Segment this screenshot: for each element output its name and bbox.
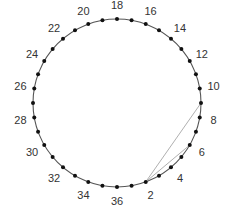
node-4 xyxy=(169,165,173,169)
node-3 xyxy=(157,174,161,178)
node-12 xyxy=(188,59,192,63)
node-label-34: 34 xyxy=(77,189,89,201)
chord-2-9 xyxy=(146,103,201,182)
node-label-6: 6 xyxy=(199,146,205,158)
node-label-26: 26 xyxy=(14,80,26,92)
node-2 xyxy=(144,180,148,184)
node-22 xyxy=(61,37,65,41)
node-label-20: 20 xyxy=(77,5,89,17)
node-20 xyxy=(86,22,90,26)
node-label-4: 4 xyxy=(177,172,183,184)
node-label-22: 22 xyxy=(48,22,60,34)
node-label-36: 36 xyxy=(111,195,123,207)
node-29 xyxy=(36,130,40,134)
node-label-28: 28 xyxy=(14,114,26,126)
circle-ring xyxy=(33,19,201,187)
node-7 xyxy=(194,130,198,134)
node-34 xyxy=(86,180,90,184)
node-26 xyxy=(32,86,36,90)
node-8 xyxy=(198,116,202,120)
node-31 xyxy=(51,155,55,159)
node-32 xyxy=(61,165,65,169)
node-13 xyxy=(179,47,183,51)
node-36 xyxy=(115,185,119,189)
node-27 xyxy=(31,101,35,105)
node-labels: 24681012141618202224262830323436 xyxy=(14,0,219,207)
chords xyxy=(146,103,201,182)
node-6 xyxy=(188,143,192,147)
node-label-24: 24 xyxy=(26,48,38,60)
node-label-8: 8 xyxy=(210,114,216,126)
node-label-2: 2 xyxy=(147,189,153,201)
node-16 xyxy=(144,22,148,26)
node-25 xyxy=(36,72,40,76)
node-5 xyxy=(179,155,183,159)
node-19 xyxy=(100,18,104,22)
node-30 xyxy=(42,143,46,147)
node-label-16: 16 xyxy=(144,5,156,17)
node-10 xyxy=(198,86,202,90)
node-1 xyxy=(130,184,134,188)
node-11 xyxy=(194,72,198,76)
node-17 xyxy=(130,18,134,22)
node-24 xyxy=(42,59,46,63)
node-label-10: 10 xyxy=(207,80,219,92)
node-label-12: 12 xyxy=(196,48,208,60)
node-21 xyxy=(73,28,77,32)
node-15 xyxy=(157,28,161,32)
nodes xyxy=(31,17,203,189)
node-23 xyxy=(51,47,55,51)
node-28 xyxy=(32,116,36,120)
node-label-30: 30 xyxy=(26,146,38,158)
node-9 xyxy=(199,101,203,105)
node-33 xyxy=(73,174,77,178)
node-label-14: 14 xyxy=(174,22,186,34)
node-18 xyxy=(115,17,119,21)
circle-diagram: 24681012141618202224262830323436 xyxy=(0,0,230,209)
node-label-32: 32 xyxy=(48,172,60,184)
node-35 xyxy=(100,184,104,188)
node-label-18: 18 xyxy=(111,0,123,11)
node-14 xyxy=(169,37,173,41)
